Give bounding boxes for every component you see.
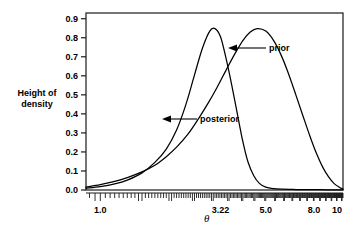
y-tick-label: 0.2 bbox=[65, 147, 78, 156]
plot-border bbox=[86, 13, 343, 190]
y-tick-label: 0.1 bbox=[65, 166, 78, 175]
prior-arrow-head bbox=[228, 45, 237, 52]
x-axis-tick-ruler bbox=[86, 193, 343, 201]
chart-canvas bbox=[0, 0, 357, 233]
prior-curve bbox=[86, 29, 343, 189]
y-tick-label: 0.4 bbox=[65, 109, 78, 118]
y-tick-label: 0.8 bbox=[65, 33, 78, 42]
y-tick-label: 0.5 bbox=[65, 90, 78, 99]
x-tick-label: 5.0 bbox=[259, 206, 272, 215]
x-tick-label: 3.22 bbox=[212, 206, 230, 215]
x-tick-label: 8.0 bbox=[308, 206, 321, 215]
x-axis-title: θ bbox=[204, 212, 209, 224]
posterior-curve-label: posterior bbox=[200, 115, 239, 124]
y-axis-ticks bbox=[81, 19, 86, 190]
density-curves bbox=[86, 28, 343, 190]
density-chart-figure: 0.00.10.20.30.40.50.60.70.80.9 1.03.225.… bbox=[0, 0, 357, 233]
y-tick-label: 0.6 bbox=[65, 71, 78, 80]
y-tick-label: 0.3 bbox=[65, 128, 78, 137]
x-tick-label: 10 bbox=[332, 206, 342, 215]
y-tick-label: 0.0 bbox=[65, 186, 78, 195]
y-axis-title-line2: density bbox=[8, 99, 66, 110]
plot-frame bbox=[86, 13, 343, 190]
posterior-arrow-head bbox=[162, 116, 171, 123]
x-tick-label: 1.0 bbox=[94, 206, 107, 215]
annotation-arrows bbox=[162, 45, 266, 123]
y-axis-title-line1: Height of bbox=[8, 88, 66, 99]
y-tick-label: 0.9 bbox=[65, 14, 78, 23]
posterior-curve bbox=[86, 28, 343, 190]
y-axis-title: Height of density bbox=[8, 88, 66, 110]
prior-curve-label: prior bbox=[269, 44, 290, 53]
y-tick-label: 0.7 bbox=[65, 52, 78, 61]
